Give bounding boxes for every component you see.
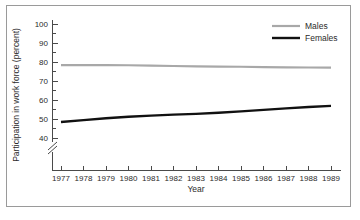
y-tick-label: 70 xyxy=(39,77,48,86)
axes-group xyxy=(48,20,341,171)
chart-legend: MalesFemales xyxy=(272,21,338,43)
line-chart: 405060708090100 197719781979198019811982… xyxy=(0,0,360,220)
x-tick-label: 1986 xyxy=(255,174,273,183)
x-axis-title: Year xyxy=(187,184,204,194)
x-tick-label: 1988 xyxy=(300,174,318,183)
y-tick-label: 60 xyxy=(39,96,48,105)
x-tick-label: 1984 xyxy=(210,174,228,183)
x-tick-label: 1982 xyxy=(165,174,183,183)
x-tick-label: 1985 xyxy=(232,174,250,183)
x-tick-label: 1989 xyxy=(322,174,340,183)
x-tick-label: 1977 xyxy=(52,174,70,183)
x-tick-label: 1979 xyxy=(97,174,115,183)
y-tick-label: 50 xyxy=(39,115,48,124)
legend-label-males: Males xyxy=(305,21,328,31)
x-tick-label: 1980 xyxy=(120,174,138,183)
y-axis-tick-labels: 405060708090100 xyxy=(35,20,49,143)
data-series-group xyxy=(61,65,331,122)
y-tick-label: 40 xyxy=(39,134,48,143)
y-axis-title: Participation in work force (percent) xyxy=(11,28,21,162)
x-tick-label: 1981 xyxy=(142,174,160,183)
series-line-females xyxy=(61,106,331,122)
legend-label-females: Females xyxy=(305,33,338,43)
chart-figure: 405060708090100 197719781979198019811982… xyxy=(0,0,360,220)
x-tick-label: 1987 xyxy=(277,174,295,183)
y-axis-ticks xyxy=(53,24,58,138)
y-tick-label: 80 xyxy=(39,58,48,67)
series-line-males xyxy=(61,65,331,68)
x-tick-label: 1983 xyxy=(187,174,205,183)
x-tick-label: 1978 xyxy=(75,174,93,183)
x-axis-ticks xyxy=(61,166,331,171)
y-tick-label: 90 xyxy=(39,39,48,48)
x-axis-tick-labels: 1977197819791980198119821983198419851986… xyxy=(52,174,340,183)
y-tick-label: 100 xyxy=(35,20,49,29)
